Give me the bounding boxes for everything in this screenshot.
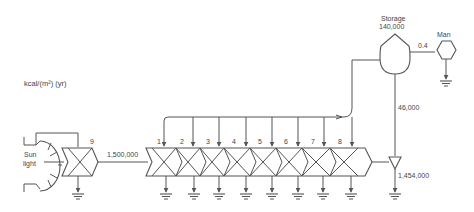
chain-number-6: 6: [284, 138, 288, 145]
storage-tank-icon: [380, 34, 410, 74]
storage-to-man-flow: 0.4: [418, 42, 428, 49]
man-consumer-icon: [437, 41, 456, 86]
consumer-9-node: [62, 148, 98, 199]
sun-label-line2: light: [23, 160, 36, 168]
consumer-9-number: 9: [90, 138, 94, 145]
storage-down-flow: 46,000: [398, 104, 420, 111]
units-label: kcal/(m²) (yr): [24, 79, 67, 88]
man-label: Man: [437, 31, 451, 38]
sun-label-line1: Sun: [24, 151, 37, 158]
heat-sink-flow: 1,454,000: [398, 172, 429, 179]
chain-number-1: 1: [157, 138, 161, 145]
storage-label: Storage: [381, 15, 406, 23]
input-flow-value: 1,500,000: [107, 151, 138, 158]
chain-number-4: 4: [232, 138, 236, 145]
chain-number-5: 5: [258, 138, 262, 145]
chain-number-7: 7: [311, 138, 315, 145]
chain-number-8: 8: [338, 138, 342, 145]
trophic-chain: [146, 148, 372, 199]
storage-value: 140,000: [379, 23, 404, 30]
energy-flow-diagram: kcal/(m²) (yr) Sun light 9 1,500,000: [0, 0, 474, 212]
chain-number-3: 3: [206, 138, 210, 145]
chain-number-2: 2: [180, 138, 184, 145]
